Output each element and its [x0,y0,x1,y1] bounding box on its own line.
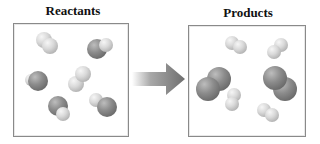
reactants-title: Reactants [40,3,106,19]
dark-atom-icon [28,71,48,91]
dark-atom-icon [97,97,117,117]
reaction-arrow-icon [130,62,188,96]
light-atom-icon [233,40,247,54]
dark-atom-icon [196,77,220,101]
light-atom-icon [267,45,281,59]
dark-atom-icon [263,66,287,90]
products-title: Products [215,5,281,21]
light-atom-icon [225,97,239,111]
light-atom-icon [265,108,279,122]
light-atom-icon [99,38,113,52]
light-atom-icon [75,66,91,82]
light-atom-icon [56,107,70,121]
light-atom-icon [42,38,58,54]
